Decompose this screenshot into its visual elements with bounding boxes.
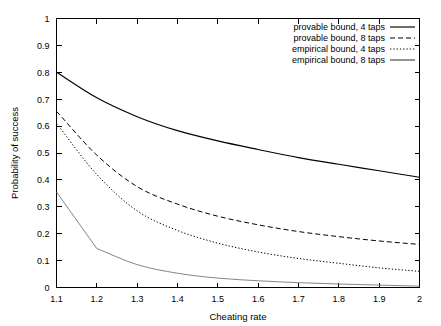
y-tick-label: 0.7 bbox=[37, 95, 50, 105]
x-tick-label: 2 bbox=[417, 294, 422, 304]
y-tick-label: 0.3 bbox=[37, 202, 50, 212]
y-tick-label: 0.5 bbox=[37, 148, 50, 158]
x-axis-title: Cheating rate bbox=[209, 311, 266, 322]
y-tick-label: 1 bbox=[44, 14, 49, 24]
series-line-1 bbox=[57, 72, 420, 177]
x-tick-label: 1.9 bbox=[373, 294, 386, 304]
legend-label-2: provable bound, 8 taps bbox=[293, 33, 385, 43]
y-tick-label: 0.9 bbox=[37, 41, 50, 51]
x-tick-label: 1.5 bbox=[212, 294, 225, 304]
x-tick-label: 1.8 bbox=[333, 294, 346, 304]
y-tick-label: 0.1 bbox=[37, 256, 50, 266]
x-tick-label: 1.6 bbox=[252, 294, 265, 304]
x-tick-label: 1.2 bbox=[91, 294, 104, 304]
y-tick-label: 0.4 bbox=[37, 175, 50, 185]
data-series-group bbox=[57, 72, 420, 286]
chart-figure: 00.10.20.30.40.50.60.70.80.91 1.11.21.31… bbox=[0, 0, 441, 326]
legend-label-1: provable bound, 4 taps bbox=[293, 22, 385, 32]
legend-label-4: empirical bound, 8 taps bbox=[292, 55, 386, 65]
y-tick-label: 0.8 bbox=[37, 68, 50, 78]
x-tick-label: 1.4 bbox=[171, 294, 184, 304]
legend-label-3: empirical bound, 4 taps bbox=[292, 44, 386, 54]
y-tick-label: 0 bbox=[44, 283, 49, 293]
x-tick-label: 1.7 bbox=[292, 294, 305, 304]
chart-legend: provable bound, 4 tapsprovable bound, 8 … bbox=[292, 22, 415, 65]
y-axis-title: Probability of success bbox=[9, 107, 20, 199]
y-tick-label: 0.2 bbox=[37, 229, 50, 239]
x-tick-label: 1.1 bbox=[50, 294, 63, 304]
line-chart: 00.10.20.30.40.50.60.70.80.91 1.11.21.31… bbox=[0, 0, 441, 326]
y-tick-label: 0.6 bbox=[37, 121, 50, 131]
series-line-2 bbox=[57, 111, 420, 244]
x-tick-label: 1.3 bbox=[131, 294, 144, 304]
